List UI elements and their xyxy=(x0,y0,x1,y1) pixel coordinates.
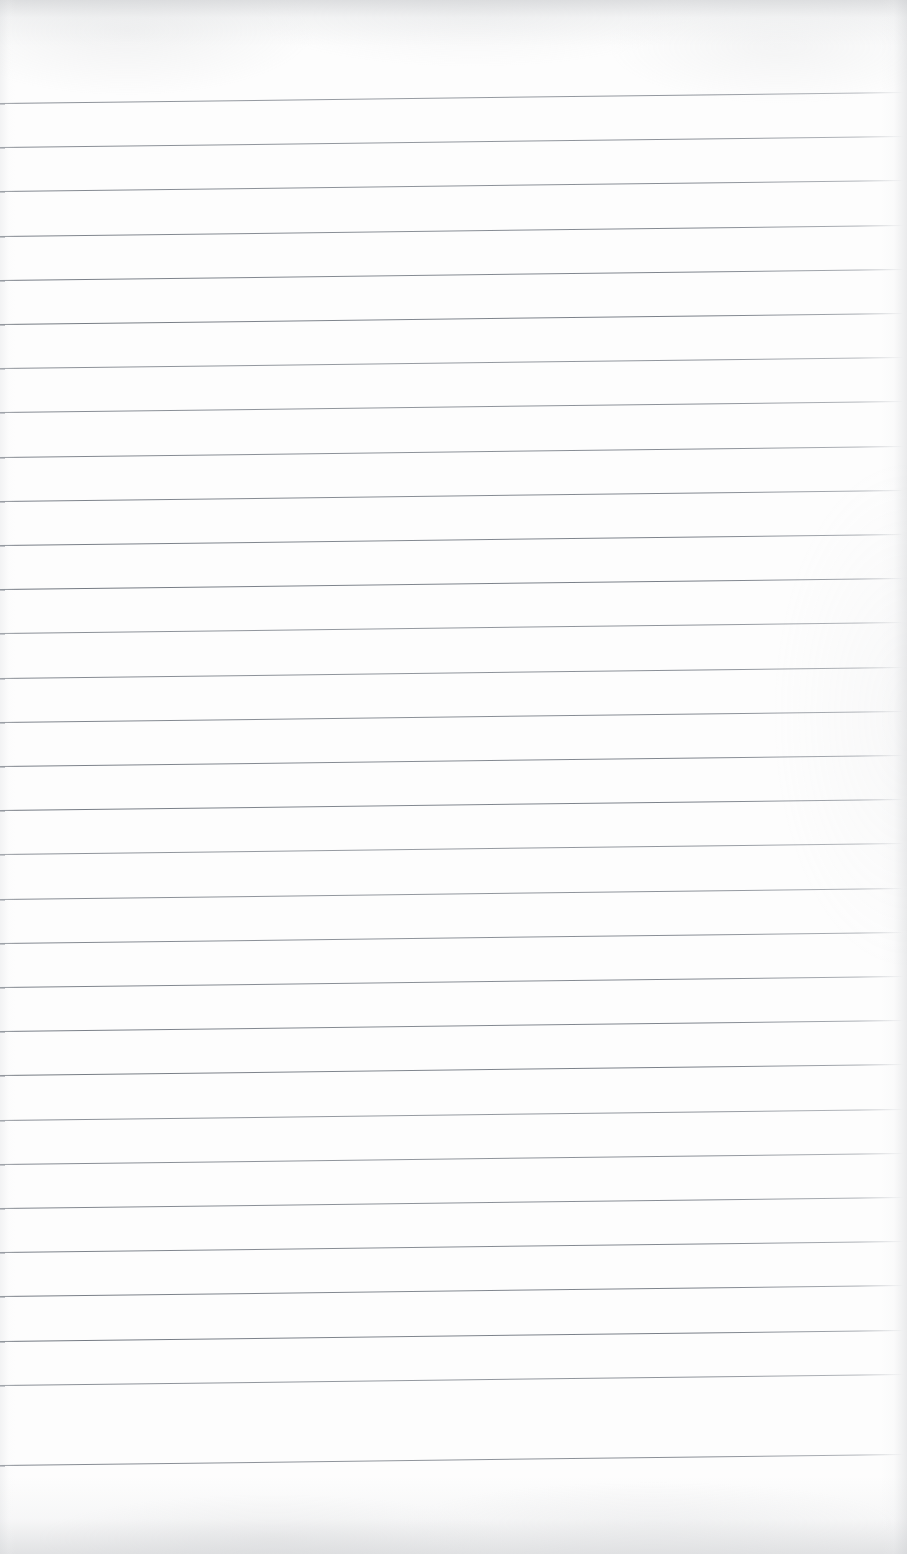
ruled-line xyxy=(0,136,903,148)
ruled-line xyxy=(0,1064,903,1076)
ruled-line xyxy=(0,888,903,900)
ruled-line xyxy=(0,490,903,502)
ruled-line xyxy=(0,446,903,458)
ruled-line xyxy=(0,667,903,679)
ruled-line xyxy=(0,799,903,811)
ruled-line xyxy=(0,401,903,413)
ruled-line xyxy=(0,755,903,767)
ruled-line xyxy=(0,711,903,723)
ruled-line xyxy=(0,1153,903,1165)
ruled-line xyxy=(0,225,903,237)
ruled-line xyxy=(0,932,903,944)
ruled-line xyxy=(0,1330,903,1342)
ruled-line xyxy=(0,534,903,546)
ruled-line xyxy=(0,269,903,281)
ruled-line xyxy=(0,180,903,192)
ruled-line xyxy=(0,357,903,369)
ruled-line xyxy=(0,843,903,855)
ruled-line xyxy=(0,1374,903,1386)
ruled-line xyxy=(0,1020,903,1032)
ruled-line xyxy=(0,1241,903,1253)
ruled-line xyxy=(0,1197,903,1209)
ruled-line xyxy=(0,92,903,104)
ruled-line xyxy=(0,313,903,325)
ruled-line xyxy=(0,1109,903,1121)
ruled-line xyxy=(0,1454,903,1466)
notebook-page xyxy=(0,0,907,1554)
ruled-line xyxy=(0,1285,903,1297)
ruled-line xyxy=(0,976,903,988)
ruled-lines-layer xyxy=(0,0,907,1554)
ruled-line xyxy=(0,622,903,634)
ruled-line xyxy=(0,578,903,590)
